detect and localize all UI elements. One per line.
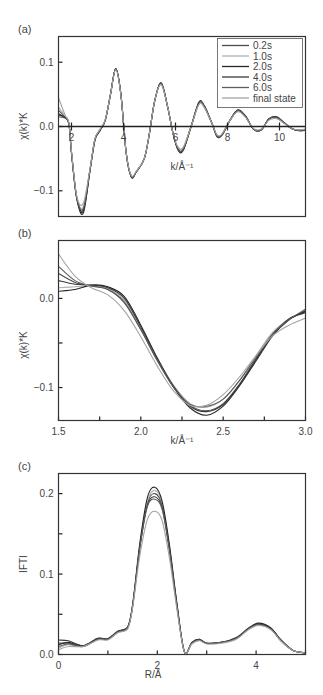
x-tick-label: 4 [253, 660, 259, 671]
legend: 0.2s1.0s2.0s4.0s6.0sfinal state [218, 39, 303, 108]
y-tick-label: −0.1 [34, 382, 54, 393]
legend-label: 2.0s [253, 61, 272, 72]
x-tick-label: 2 [69, 132, 75, 143]
panel-b-ylabel: χ(k)*K [18, 331, 29, 359]
x-tick-label: 3.0 [299, 426, 313, 437]
series-line-final-state [59, 254, 306, 407]
y-tick-label: 0.1 [40, 569, 54, 580]
exafs-figure: (a) 246810−0.10.00.1 k/Å⁻¹ χ(k)*K 0.2s1.… [0, 0, 323, 695]
panel-b-chi-k-zoom: (b) 1.52.02.53.0−0.10.0 k/Å⁻¹ χ(k)*K [18, 227, 313, 446]
legend-label: 1.0s [253, 51, 272, 62]
x-tick-label: 10 [274, 132, 286, 143]
panel-c-series [59, 487, 306, 654]
x-tick-label: 8 [225, 132, 231, 143]
x-tick-label: 4 [121, 132, 127, 143]
panel-c-xlabel: R/Å [145, 668, 162, 680]
series-line-final-state [59, 511, 306, 653]
x-tick-label: 1.5 [52, 426, 66, 437]
series-line-4.0s [59, 281, 306, 412]
panel-b-label: (b) [18, 227, 31, 239]
y-tick-label: 0.0 [40, 293, 54, 304]
panel-a-ylabel: χ(k)*K [18, 112, 29, 140]
series-line-1.0s [59, 490, 306, 653]
panel-b-series [59, 254, 306, 415]
legend-label: 4.0s [253, 72, 272, 83]
y-tick-label: −0.1 [34, 185, 54, 196]
x-tick-label: 6 [173, 132, 179, 143]
x-tick-label: 2.5 [216, 426, 230, 437]
panel-a-label: (a) [18, 23, 31, 35]
series-line-1.0s [59, 286, 306, 408]
panel-c-ft-magnitude: (c) 0240.00.10.2 R/Å IFTI [18, 460, 306, 680]
panel-c-label: (c) [18, 460, 31, 472]
figure-canvas: (a) 246810−0.10.00.1 k/Å⁻¹ χ(k)*K 0.2s1.… [0, 0, 323, 695]
x-tick-label: 0 [56, 660, 62, 671]
panel-c-ylabel: IFTI [18, 555, 29, 573]
series-line-4.0s [59, 497, 306, 654]
legend-label: 0.2s [253, 40, 272, 51]
panel-b-frame [59, 241, 306, 421]
series-line-2.0s [59, 487, 306, 654]
legend-label: 6.0s [253, 82, 272, 93]
panel-b-axes: 1.52.02.53.0−0.10.0 [34, 293, 313, 437]
series-line-6.0s [59, 499, 306, 654]
y-tick-label: 0.0 [40, 649, 54, 660]
panel-b-xlabel: k/Å⁻¹ [171, 434, 194, 446]
x-tick-label: 2.0 [134, 426, 148, 437]
y-tick-label: 0.0 [40, 121, 54, 132]
panel-a-chi-k: (a) 246810−0.10.00.1 k/Å⁻¹ χ(k)*K 0.2s1.… [18, 23, 306, 217]
panel-a-xlabel: k/Å⁻¹ [171, 160, 194, 172]
y-tick-label: 0.2 [40, 488, 54, 499]
series-line-0.2s [59, 494, 306, 654]
y-tick-label: 0.1 [40, 57, 54, 68]
legend-label: final state [253, 93, 296, 104]
